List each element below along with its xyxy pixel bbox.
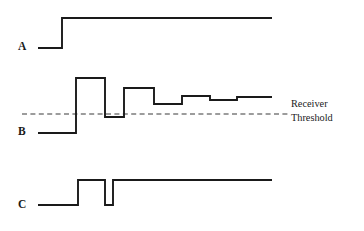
receiver-threshold-label-line1: Receiver: [291, 97, 333, 111]
receiver-threshold-label-line2: Threshold: [291, 111, 333, 125]
signal-c-trace: [38, 180, 272, 205]
signal-c-label: C: [18, 199, 27, 211]
signal-a-label: A: [18, 41, 27, 53]
signal-b-trace: [38, 78, 272, 133]
signal-b-label: B: [18, 126, 26, 138]
receiver-threshold-label: Receiver Threshold: [291, 97, 333, 125]
signal-a-trace: [38, 18, 272, 48]
waveform-figure: A B C Receiver Threshold: [0, 0, 364, 231]
